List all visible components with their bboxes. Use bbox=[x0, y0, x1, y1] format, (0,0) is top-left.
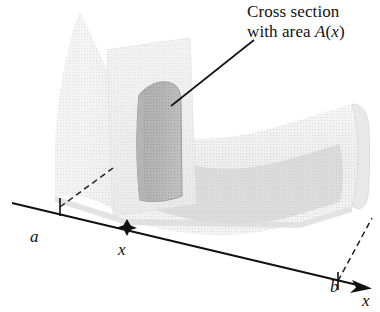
axis-tick-label-b: b bbox=[330, 277, 339, 297]
callout-line-2: with area A(x) bbox=[247, 22, 345, 42]
callout-paren-close: ) bbox=[339, 22, 345, 41]
callout-area-function: A bbox=[315, 22, 325, 41]
solid-left-rear-flare-texture bbox=[55, 12, 80, 196]
cross-section-callout: Cross section with area A(x) bbox=[247, 2, 345, 42]
axis-point-label-x: x bbox=[118, 240, 126, 260]
cross-section-solid-figure: Cross section with area A(x) a x b x bbox=[0, 0, 380, 312]
callout-variable-x: x bbox=[331, 22, 339, 41]
figure-canvas bbox=[0, 0, 380, 312]
callout-line-2-prefix: with area bbox=[247, 22, 315, 41]
dashed-line-b bbox=[338, 218, 372, 281]
axis-tick-label-a: a bbox=[30, 227, 39, 247]
axis-name-label-x: x bbox=[362, 291, 370, 311]
solid-body bbox=[55, 12, 370, 235]
callout-line-1: Cross section bbox=[247, 2, 345, 22]
cross-section-region bbox=[137, 82, 182, 202]
